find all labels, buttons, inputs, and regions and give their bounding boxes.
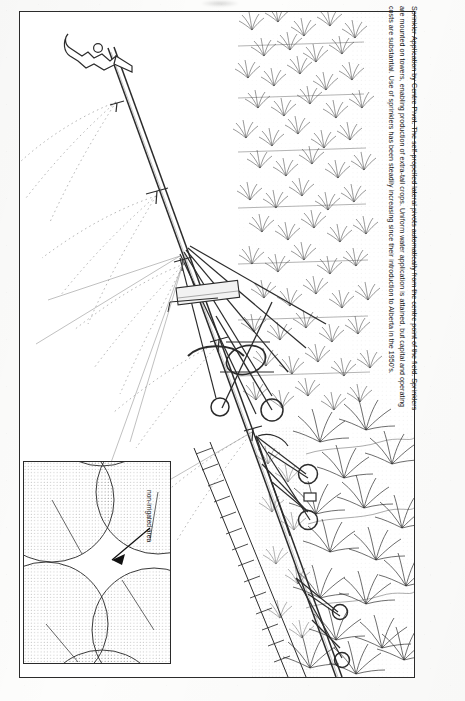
non-irrigated-area-label: non-irrigated area (144, 490, 155, 574)
figure-caption: Sprinkler Application by Centre Pivot. T… (375, 6, 419, 678)
scanned-page: non-irrigated area Sprinkler Application… (0, 0, 465, 701)
caption-line-2: are mounted on towers, enabling producti… (396, 6, 408, 678)
caption-line-1: Sprinkler Application by Centre Pivot. T… (407, 6, 419, 678)
scan-smudge-mark (200, 0, 240, 7)
caption-line-3: costs are substantial. Use of sprinklers… (384, 6, 396, 678)
inset-plan-diagram: non-irrigated area (23, 461, 171, 664)
